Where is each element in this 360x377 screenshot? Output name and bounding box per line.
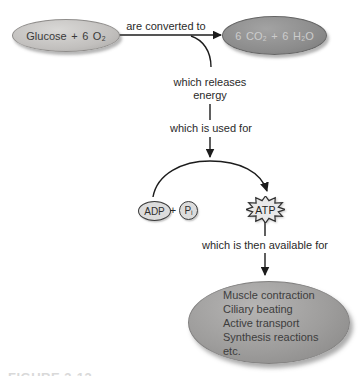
reactants-ellipse: Glucose + 6 O₂: [12, 19, 120, 52]
adp-text: ADP: [144, 206, 165, 217]
atp-starburst: ATP: [246, 196, 285, 223]
energy-use-item: Muscle contraction: [223, 288, 318, 302]
label-which-is-used-for: which is used for: [161, 122, 261, 135]
energy-uses-ellipse: Muscle contraction Ciliary beating Activ…: [188, 281, 350, 364]
energy-use-item: etc.: [223, 344, 318, 358]
energy-use-item: Ciliary beating: [223, 302, 318, 316]
label-which-releases-energy: which releases energy: [160, 76, 260, 101]
cropped-figure-caption: FIGURE 3-13: [8, 371, 128, 376]
products-ellipse: 6 CO₂ + 6 H₂O: [222, 16, 327, 55]
energy-uses-list: Muscle contraction Ciliary beating Activ…: [223, 288, 318, 358]
energy-use-item: Synthesis reactions: [223, 330, 318, 344]
pi-text: Pᵢ: [184, 205, 192, 216]
atp-text: ATP: [246, 196, 285, 223]
diagram-canvas: Glucose + 6 O₂ 6 CO₂ + 6 H₂O are convert…: [0, 0, 360, 377]
products-text: 6 CO₂ + 6 H₂O: [235, 30, 313, 42]
arc-adp-to-atp: [153, 161, 267, 197]
label-which-is-then-available-for: which is then available for: [190, 239, 340, 252]
curve-releases-energy: [191, 36, 211, 67]
energy-use-item: Active transport: [223, 316, 318, 330]
reactants-text: Glucose + 6 O₂: [26, 30, 105, 42]
label-are-converted-to: are converted to: [116, 20, 216, 33]
pi-circle: Pᵢ: [179, 201, 198, 220]
plus-sign: +: [167, 204, 179, 216]
